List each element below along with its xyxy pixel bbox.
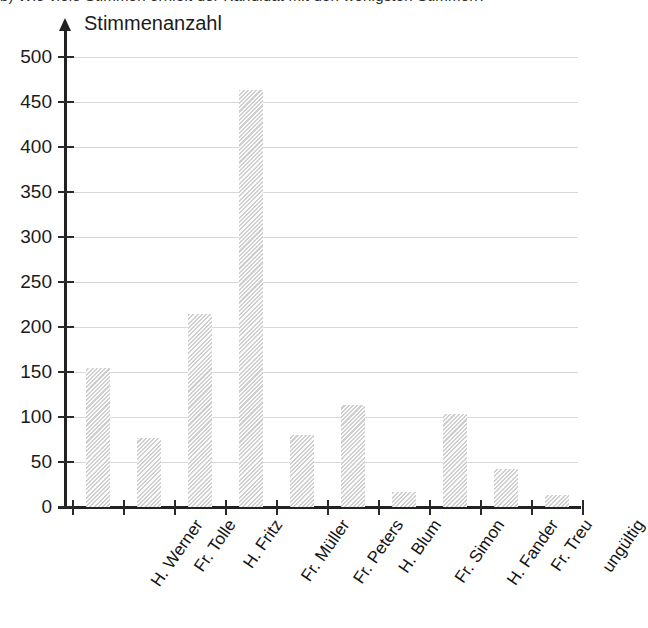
bar: [137, 438, 161, 507]
x-axis-tick: [327, 500, 329, 515]
y-axis-tick-label: 200: [4, 316, 52, 338]
y-axis-tick: [58, 326, 74, 328]
y-axis-tick: [58, 416, 74, 418]
x-axis-tick-label: Fr. Simon: [451, 516, 509, 587]
x-axis-tick: [174, 500, 176, 515]
gridline: [67, 57, 578, 58]
y-axis-tick-label: 0: [4, 496, 52, 518]
bar: [494, 469, 518, 507]
gridline: [67, 282, 578, 283]
gridline: [67, 372, 578, 373]
bar: [392, 492, 416, 507]
bar: [86, 368, 110, 507]
y-axis-tick-label-wrap: 300: [0, 226, 52, 246]
y-axis-tick-label-wrap: 450: [0, 91, 52, 111]
bar: [239, 90, 263, 507]
gridline: [67, 237, 578, 238]
y-axis-tick: [58, 191, 74, 193]
bar: [341, 405, 365, 507]
y-axis-tick-label: 300: [4, 226, 52, 248]
y-axis-tick-label-wrap: 350: [0, 181, 52, 201]
x-axis-tick: [225, 500, 227, 515]
x-axis-tick: [582, 500, 584, 515]
y-axis-tick-label-wrap: 250: [0, 271, 52, 291]
x-axis-tick: [72, 500, 74, 515]
x-axis-tick-label: Fr. Peters: [349, 516, 408, 588]
bar: [290, 435, 314, 507]
x-axis-tick: [123, 500, 125, 515]
x-axis-tick-label: H. Fritz: [239, 516, 287, 572]
y-axis-tick-label-wrap: 150: [0, 361, 52, 381]
y-axis-tick-label: 500: [4, 46, 52, 68]
x-axis-tick-label: Fr. Müller: [297, 516, 354, 586]
y-axis-tick-label: 400: [4, 136, 52, 158]
x-axis-tick: [480, 500, 482, 515]
y-axis-tick-label-wrap: 500: [0, 46, 52, 66]
gridline: [67, 417, 578, 418]
x-axis-tick: [378, 500, 380, 515]
y-axis-tick: [58, 56, 74, 58]
x-axis-tick: [276, 500, 278, 515]
gridline: [67, 102, 578, 103]
y-axis-tick: [58, 101, 74, 103]
y-axis-tick: [58, 281, 74, 283]
y-axis-tick: [58, 461, 74, 463]
y-axis-tick-label: 100: [4, 406, 52, 428]
x-axis-tick-label: ungültig: [598, 516, 648, 576]
gridline: [67, 192, 578, 193]
y-axis-tick-label-wrap: 50: [0, 451, 52, 471]
y-axis-tick-label-wrap: 400: [0, 136, 52, 156]
y-axis-tick: [58, 371, 74, 373]
y-axis-tick-label: 150: [4, 361, 52, 383]
bar: [545, 495, 569, 507]
y-axis-tick-label-wrap: 200: [0, 316, 52, 336]
y-axis-title: Stimmenanzahl: [84, 12, 222, 35]
y-axis-tick-label: 450: [4, 91, 52, 113]
y-axis-tick-label: 250: [4, 271, 52, 293]
x-axis-tick: [531, 500, 533, 515]
y-axis-tick-label-wrap: 100: [0, 406, 52, 426]
x-axis-tick: [429, 500, 431, 515]
bar: [443, 414, 467, 507]
y-axis-tick-label: 50: [4, 451, 52, 473]
y-axis-tick: [58, 236, 74, 238]
y-axis-tick-label: 350: [4, 181, 52, 203]
bar: [188, 314, 212, 507]
gridline: [67, 327, 578, 328]
y-axis-tick: [58, 146, 74, 148]
y-axis-tick-label-wrap: 0: [0, 496, 52, 516]
gridline: [67, 147, 578, 148]
